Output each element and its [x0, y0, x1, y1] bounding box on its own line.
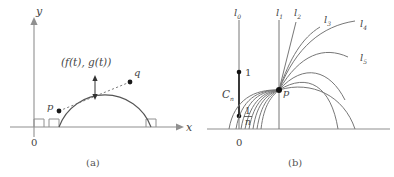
- ray-label-l0: l0: [234, 7, 241, 20]
- panel-b: l0 l1 l2 l3 l4 l5 1 1 n: [207, 7, 390, 168]
- ray-label-l5: l5: [360, 52, 367, 65]
- curve-family-left-4: [249, 90, 279, 129]
- point-p-label-b: p: [283, 87, 290, 98]
- ray-label-l1: l1: [276, 7, 283, 20]
- right-angle-marker-origin: [34, 119, 44, 127]
- point-q-dot: [128, 80, 133, 85]
- segment-cn-top-dot: [237, 70, 242, 75]
- y-axis-arrowhead: [30, 17, 37, 25]
- segment-cn-label: Cn: [222, 88, 234, 102]
- ray-label-l3: l3: [324, 14, 331, 27]
- point-p-label-a: p: [47, 101, 54, 112]
- tick-label-one-over-n: 1 n: [244, 106, 252, 127]
- curve-family-right-3: [279, 87, 355, 129]
- point-q-label-a: q: [134, 67, 140, 78]
- ray-label-l2: l2: [294, 7, 301, 20]
- panel-a: y x 0 p q (f(t), g(t)) (a): [10, 5, 193, 168]
- point-p-dot: [57, 109, 62, 114]
- caption-panel-b: (b): [288, 157, 302, 168]
- y-axis-label: y: [35, 5, 43, 18]
- parametric-curve-label: (f(t), g(t)): [61, 56, 111, 68]
- panel-a-x-axis: [10, 123, 184, 130]
- fraction-denominator: n: [245, 117, 251, 127]
- math-figure-svg: y x 0 p q (f(t), g(t)) (a): [0, 0, 394, 177]
- arc-curve: [59, 95, 151, 127]
- point-p-dot-b: [276, 87, 282, 93]
- figure-root: y x 0 p q (f(t), g(t)) (a): [0, 0, 394, 177]
- tick-label-one: 1: [245, 67, 251, 78]
- x-axis-arrowhead: [176, 123, 184, 130]
- x-axis-label: x: [186, 121, 193, 134]
- origin-label-b: 0: [236, 137, 242, 148]
- caption-panel-a: (a): [86, 157, 100, 168]
- fraction-numerator: 1: [245, 106, 251, 116]
- distance-arrow-head-top: [92, 75, 97, 81]
- right-angle-marker-left: [49, 119, 59, 127]
- ray-label-l4: l4: [360, 18, 367, 31]
- origin-label-a: 0: [31, 137, 37, 148]
